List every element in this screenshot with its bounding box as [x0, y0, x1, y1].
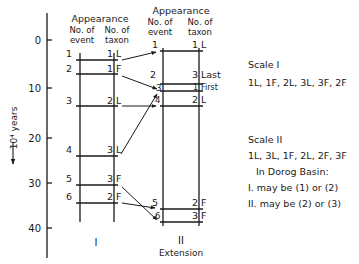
- column-ii-footer-sub: Extension: [159, 248, 203, 258]
- tick-label: 10: [28, 83, 41, 94]
- taxon-number: 2: [107, 191, 113, 202]
- taxon-number: 3: [192, 69, 198, 80]
- column-ii-footer: II: [178, 235, 184, 246]
- taxon-type: L: [201, 94, 207, 105]
- taxon-type: L: [116, 48, 122, 59]
- event-number: 2: [66, 63, 72, 74]
- column-i-header: Appearance: [71, 13, 128, 24]
- taxon-number: 2: [107, 95, 113, 106]
- arrow-icon: [121, 94, 157, 154]
- event-header-1: No. of: [147, 17, 173, 27]
- event-number: 5: [66, 173, 72, 184]
- taxon-type: Last: [201, 69, 221, 80]
- tick-label: 0: [35, 35, 41, 46]
- arrow-icon: [122, 203, 155, 208]
- taxon-type: L: [116, 95, 122, 106]
- taxon-header-1: No. of: [104, 25, 130, 35]
- y-axis-label: 10⁴ years: [9, 106, 19, 149]
- event-number: 1: [152, 39, 158, 50]
- column-ii-labels: 1 2 3 4 5 6 1 3 1 2 2 3 L Last First L F…: [150, 39, 221, 221]
- taxon-number: 2: [192, 197, 198, 208]
- scale-i-title: Scale I: [248, 58, 279, 71]
- note-line-2: II. may be (2) or (3): [248, 197, 341, 210]
- taxon-number: 1: [192, 39, 198, 50]
- taxon-header-2: taxon: [105, 35, 129, 45]
- y-axis: [47, 13, 52, 258]
- event-number: 4: [66, 144, 72, 155]
- event-number: 2: [150, 69, 156, 80]
- taxon-number: 1: [107, 63, 113, 74]
- column-ii-heading: Appearance: [152, 5, 209, 16]
- event-number: 6: [66, 191, 72, 202]
- heading: Appearance: [71, 13, 128, 24]
- tick-label: 30: [28, 178, 41, 189]
- taxon-type: F: [116, 191, 121, 202]
- scale-ii-sequence: 1L, 3L, 1F, 2L, 2F, 3F: [248, 149, 347, 162]
- scale-ii-title: Scale II: [248, 133, 282, 146]
- taxon-number: 1: [107, 48, 113, 59]
- event-header-2: event: [70, 35, 95, 45]
- taxon-type: First: [201, 83, 218, 92]
- event-number: 1: [66, 48, 72, 59]
- correlation-diagram: 0 10 20 30 40 10⁴ years Appearance No. o…: [0, 0, 359, 264]
- taxon-type: L: [201, 39, 207, 50]
- event-number: 3: [156, 83, 161, 93]
- taxon-number: 1: [193, 83, 198, 92]
- taxon-number: 3: [192, 210, 198, 221]
- event-number: 3: [66, 95, 72, 106]
- arrow-icon: [122, 52, 156, 60]
- taxon-header-1: No. of: [187, 17, 213, 27]
- taxon-header-2: taxon: [188, 27, 212, 37]
- basin-note: In Dorog Basin:: [256, 165, 329, 178]
- note-line-1: I. may be (1) or (2): [248, 181, 338, 194]
- y-axis-tick-labels: 0 10 20 30 40: [28, 35, 41, 234]
- column-i-footer: I: [95, 237, 98, 248]
- taxon-number: 3: [107, 144, 113, 155]
- scale-i-sequence: 1L, 1F, 2L, 3L, 3F, 2F: [248, 76, 347, 89]
- taxon-number: 3: [107, 173, 113, 184]
- taxon-type: F: [201, 197, 206, 208]
- tick-label: 20: [28, 133, 41, 144]
- event-header-2: event: [148, 27, 173, 37]
- taxon-number: 2: [192, 94, 198, 105]
- taxon-type: F: [201, 210, 206, 221]
- event-header-1: No. of: [69, 25, 95, 35]
- event-number: 5: [152, 197, 158, 208]
- taxon-type: F: [116, 173, 121, 184]
- taxon-type: F: [116, 63, 121, 74]
- tick-label: 40: [28, 223, 41, 234]
